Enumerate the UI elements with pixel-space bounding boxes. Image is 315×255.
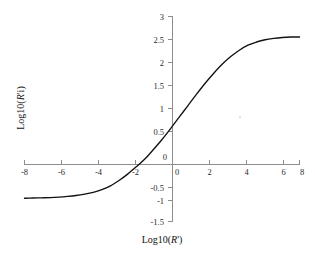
x-tick-label-2: 2	[207, 167, 211, 177]
y-tick-label-1: 1	[160, 104, 164, 114]
x-axis-title-prefix: Log10(	[142, 234, 172, 246]
y-tick-label--1: -1	[157, 196, 164, 206]
y-axis-title-suffix: 'i)	[15, 86, 27, 94]
x-tick-label--2: -2	[132, 167, 139, 177]
y-axis-title-prefix: Log10(	[15, 100, 27, 130]
y-tick-label-2.5: 2.5	[153, 35, 164, 45]
x-tick-label--8: -8	[21, 167, 28, 177]
x-tick-label-4: 4	[244, 167, 249, 177]
y-tick-label-0.5: 0.5	[153, 127, 164, 137]
x-tick-label--6: -6	[58, 167, 65, 177]
y-axis-title-italic: R	[15, 94, 26, 101]
x-axis-tick-labels: -8 -6 -4 -2 0 2 4 6 8	[21, 167, 304, 177]
y-axis-tick-labels: 3 2.5 2 1.5 1 0.5 0 -0.5 -1 -1.5	[151, 12, 167, 227]
chart-plot-area: -8 -6 -4 -2 0 2 4 6 8 3 2.5 2 1.5 1 0.5 …	[0, 0, 315, 255]
scan-artifact-speck	[239, 116, 241, 118]
y-tick-label--0.5: -0.5	[151, 183, 164, 193]
x-tick-label-8: 8	[300, 167, 304, 177]
x-axis-title-suffix: ')	[177, 234, 182, 246]
x-axis-title-italic: R	[170, 234, 177, 245]
x-axis-title: Log10(R')	[142, 234, 183, 246]
y-tick-label-3: 3	[160, 12, 164, 22]
y-tick-label-2: 2	[160, 58, 164, 68]
x-tick-label-6: 6	[281, 167, 285, 177]
y-tick-label-1.5: 1.5	[153, 81, 164, 91]
y-tick-label-0: 0	[163, 152, 167, 162]
x-tick-label-0: 0	[175, 167, 179, 177]
chart-figure: -8 -6 -4 -2 0 2 4 6 8 3 2.5 2 1.5 1 0.5 …	[0, 0, 315, 255]
x-tick-label--4: -4	[95, 167, 103, 177]
y-axis-title: Log10(R'i)	[15, 86, 27, 129]
y-tick-label--1.5: -1.5	[151, 217, 164, 227]
